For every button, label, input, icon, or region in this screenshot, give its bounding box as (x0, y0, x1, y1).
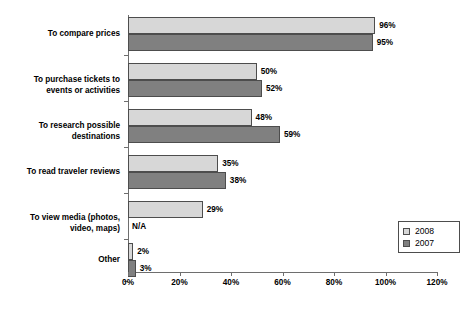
bar-value-label: 2% (133, 243, 149, 260)
category-label: To research possible destinations (0, 121, 120, 142)
category-label: To purchase tickets to events or activit… (0, 75, 120, 96)
bar-2008 (128, 63, 257, 80)
bar-2007 (128, 34, 373, 51)
x-axis-tick (334, 272, 335, 276)
category-group: To view media (photos, video, maps)29%N/… (128, 201, 437, 235)
y-axis-tick (124, 55, 128, 56)
bar-value-label: 48% (252, 109, 272, 126)
x-axis-tick (386, 272, 387, 276)
bar-value-label: 52% (262, 80, 282, 97)
bar-value-label: 38% (226, 172, 246, 189)
bar-value-label: 95% (373, 34, 393, 51)
legend-label-2007: 2007 (415, 237, 434, 249)
x-axis-tick (128, 272, 129, 276)
bar-2007 (128, 172, 226, 189)
legend-label-2008: 2008 (415, 225, 434, 237)
bar-2008 (128, 201, 203, 218)
x-axis-tick-label: 60% (274, 278, 290, 287)
category-group: To purchase tickets to events or activit… (128, 63, 437, 97)
plot-area: To compare prices96%95%To purchase ticke… (128, 17, 437, 272)
bar-2007 (128, 80, 262, 97)
bar-2008 (128, 109, 252, 126)
x-axis-tick-label: 0% (122, 278, 134, 287)
bar-2007 (128, 126, 280, 143)
legend: 2008 2007 (398, 221, 460, 253)
x-axis-tick-label: 100% (375, 278, 396, 287)
legend-swatch-2007 (403, 240, 410, 247)
x-axis-tick (231, 272, 232, 276)
bar-2008 (128, 17, 375, 34)
legend-item-2007: 2007 (403, 237, 455, 249)
bar-value-label: 59% (280, 126, 300, 143)
bar-value-label: 3% (136, 260, 152, 277)
y-axis-tick (124, 147, 128, 148)
bar-2007 (128, 260, 136, 277)
y-axis-tick (124, 239, 128, 240)
x-axis-tick (437, 272, 438, 276)
y-axis-tick (124, 101, 128, 102)
bar-value-label: N/A (128, 218, 146, 235)
bar-value-label: 35% (218, 155, 238, 172)
bar-value-label: 50% (257, 63, 277, 80)
x-axis-tick (283, 272, 284, 276)
category-group: To read traveler reviews35%38% (128, 155, 437, 189)
category-group: To research possible destinations48%59% (128, 109, 437, 143)
category-label: To read traveler reviews (0, 167, 120, 178)
x-axis-tick-label: 80% (326, 278, 342, 287)
legend-swatch-2008 (403, 228, 410, 235)
x-axis-tick-label: 120% (427, 278, 448, 287)
x-axis-tick-label: 20% (171, 278, 187, 287)
bar-chart: To compare prices96%95%To purchase ticke… (0, 0, 470, 309)
category-label: Other (0, 255, 120, 266)
category-label: To view media (photos, video, maps) (0, 213, 120, 234)
bar-value-label: 29% (203, 201, 223, 218)
x-axis-tick (180, 272, 181, 276)
legend-item-2008: 2008 (403, 225, 455, 237)
bar-2008 (128, 155, 218, 172)
category-label: To compare prices (0, 29, 120, 40)
y-axis-tick (124, 193, 128, 194)
category-group: To compare prices96%95% (128, 17, 437, 51)
x-axis-tick-label: 40% (223, 278, 239, 287)
bar-value-label: 96% (375, 17, 395, 34)
